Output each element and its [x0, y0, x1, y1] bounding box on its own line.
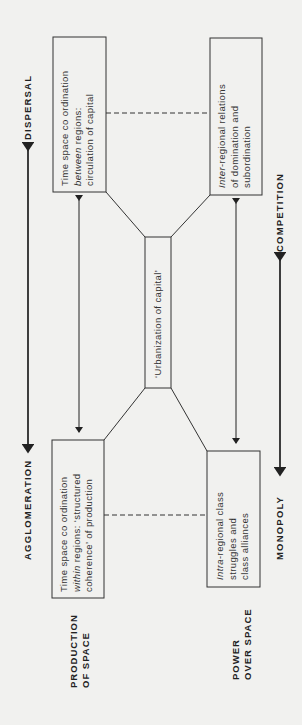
- box-line: Inter-regional relations: [216, 84, 229, 188]
- dimension-power-over-space: POWER OVER SPACE: [230, 608, 254, 680]
- box-line: circulation of capital: [84, 71, 97, 186]
- box-line: Intra-regional class: [214, 492, 227, 580]
- axis-label-dispersal: DISPERSAL: [22, 75, 33, 140]
- dim-line: PRODUCTION: [68, 614, 80, 688]
- box-line: subordination: [241, 84, 254, 188]
- dim-line: POWER: [230, 608, 242, 680]
- box-top-right: Inter-regional relations of domination a…: [216, 84, 254, 188]
- box-line: class alliances: [239, 492, 252, 580]
- box-line: between regions:: [72, 71, 85, 186]
- box-line: Time space co ordination: [59, 71, 72, 186]
- box-line: struggles and: [227, 492, 240, 580]
- box-center: ‘Urbanization of capital’: [152, 270, 165, 378]
- dim-line: OVER SPACE: [242, 608, 254, 680]
- emphasis: within: [71, 565, 82, 592]
- emphasis: Intra: [214, 559, 225, 580]
- emphasis: Inter: [216, 167, 227, 188]
- box-top-left: Time space co ordination between regions…: [59, 71, 97, 186]
- axis-label-competition: COMPETITION: [274, 173, 285, 252]
- box-line: within regions: ‘structured: [71, 473, 84, 592]
- box-bottom-right: Intra-regional class struggles and class…: [214, 492, 252, 580]
- box-line: Time space co ordination: [58, 473, 71, 592]
- box-bottom-left: Time space co ordination within regions:…: [58, 473, 96, 592]
- emphasis: between: [72, 147, 83, 186]
- axis-label-agglomeration: AGGLOMERATION: [22, 460, 33, 560]
- dimension-production-of-space: PRODUCTION OF SPACE: [68, 614, 92, 688]
- box-line: of domination and: [229, 84, 242, 188]
- box-line: coherence’ of production: [83, 473, 96, 592]
- dim-line: OF SPACE: [80, 614, 92, 688]
- diagram-lines: [0, 0, 302, 725]
- axis-label-monopoly: MONOPOLY: [274, 496, 285, 560]
